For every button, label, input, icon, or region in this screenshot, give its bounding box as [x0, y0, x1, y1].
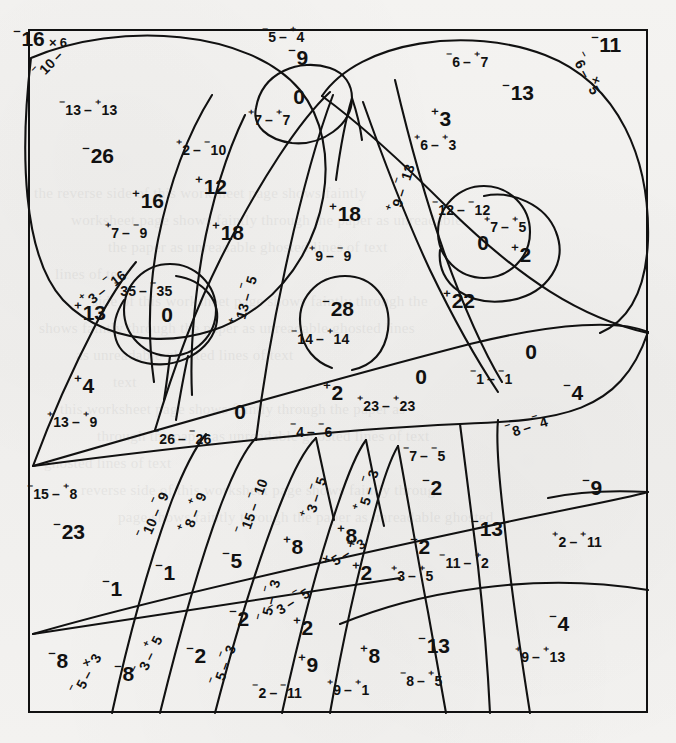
- expression-term: ⁻3: [264, 578, 283, 596]
- expression-term: ⁺6: [414, 138, 429, 154]
- term-value: 9: [315, 249, 323, 265]
- term-sign: ⁻: [59, 97, 65, 111]
- answer-value: 4: [571, 381, 582, 404]
- answer-value: 0: [161, 303, 172, 326]
- term-value: 11: [287, 686, 302, 702]
- answer-value: 26: [91, 144, 114, 167]
- region-expression: ⁺7–⁻9: [105, 220, 148, 241]
- term-sign: ⁻: [431, 443, 437, 457]
- expression-term: ⁻13: [59, 103, 81, 119]
- answer-sign: ⁺: [329, 200, 337, 217]
- answer-sign: ⁺: [360, 642, 368, 659]
- answer-value: 9: [590, 476, 601, 499]
- term-value: 5: [426, 569, 434, 585]
- expression-operator: –: [122, 226, 130, 242]
- term-value: 23: [400, 399, 416, 415]
- term-value: 23: [363, 399, 379, 415]
- region-answer: ⁺18: [212, 219, 243, 245]
- answer-sign: ⁻: [322, 295, 330, 312]
- answer-sign: ⁻: [410, 533, 418, 550]
- region-answer: ⁻13: [418, 632, 449, 658]
- answer-value: 13: [511, 81, 534, 104]
- term-sign: ⁺: [428, 668, 434, 682]
- term-sign: ⁻: [189, 426, 195, 440]
- expression-term: ⁺7: [474, 55, 489, 71]
- answer-sign: ⁻: [229, 605, 237, 622]
- term-sign: ⁺: [105, 220, 111, 234]
- term-value: 2: [559, 535, 567, 551]
- expression-operator: –: [178, 432, 186, 448]
- term-value: 9: [90, 415, 98, 431]
- answer-sign: ⁺: [293, 614, 301, 631]
- answer-value: 8: [291, 535, 302, 558]
- term-value: 2: [481, 556, 489, 572]
- term-value: 35: [120, 284, 136, 300]
- region-answer: 0: [293, 85, 304, 109]
- expression-operator: –: [463, 55, 471, 71]
- term-sign: ⁻: [291, 326, 297, 340]
- term-value: 5: [438, 449, 446, 465]
- region-expression: ⁺9–⁺1: [327, 677, 370, 698]
- answer-sign: ⁺: [195, 173, 203, 190]
- region-answer: ⁻13: [502, 79, 533, 105]
- answer-value: 23: [62, 520, 85, 543]
- answer-sign: ⁻: [591, 31, 599, 48]
- expression-operator: –: [307, 425, 315, 441]
- expression-term: ⁺9: [327, 683, 342, 699]
- expression-operator: –: [270, 686, 278, 702]
- term-sign: ⁺: [95, 97, 101, 111]
- expression-operator: –: [570, 535, 578, 551]
- term-sign: ⁻: [204, 137, 210, 151]
- answer-value: 2: [418, 535, 429, 558]
- expression-term: ⁻11: [280, 686, 302, 702]
- answer-value: 11: [599, 33, 621, 56]
- term-sign: ⁺: [290, 24, 296, 38]
- expression-term: ⁺9: [515, 650, 530, 666]
- region-expression: ⁺23–⁺23: [357, 393, 416, 414]
- expression-term: ⁻8: [400, 674, 415, 690]
- expression-term: ⁻1: [498, 372, 513, 388]
- answer-value: 1: [110, 577, 121, 600]
- term-sign: ⁺: [47, 409, 53, 423]
- answer-sign: ⁻: [155, 559, 163, 576]
- term-sign: ⁺: [552, 529, 558, 543]
- term-value: 6: [420, 138, 428, 154]
- term-value: 2: [259, 686, 267, 702]
- term-value: 6: [452, 55, 460, 71]
- expression-term: ⁻4: [290, 425, 305, 441]
- region-expression: ⁺7–⁺5: [484, 214, 527, 235]
- answer-sign: ⁻: [114, 660, 122, 677]
- answer-value: 13: [427, 634, 450, 657]
- term-sign: ⁻: [468, 197, 474, 211]
- region-answer: ⁺8: [283, 533, 303, 559]
- answer-value: 2: [519, 243, 530, 266]
- region-expression: ⁺13–⁺9: [47, 409, 98, 430]
- answer-value: 28: [331, 297, 354, 320]
- term-value: 5: [519, 220, 527, 236]
- region-expression: ⁻6–⁺7: [446, 49, 489, 70]
- answer-sign: ⁻: [53, 518, 61, 535]
- term-sign: ⁻: [153, 426, 159, 440]
- expression-operator: –: [420, 449, 428, 465]
- region-expression: ⁻4–⁻6: [290, 419, 333, 440]
- expression-term: ⁻5: [262, 30, 277, 46]
- answer-value: 5: [230, 549, 241, 572]
- term-value: 3: [397, 569, 405, 585]
- expression-term: ⁺3: [391, 569, 406, 585]
- term-value: 14: [334, 332, 350, 348]
- expression-term: ⁺23: [393, 399, 415, 415]
- term-sign: ⁺: [442, 132, 448, 146]
- answer-sign: ⁺: [323, 379, 331, 396]
- expression-term: ⁺9: [83, 415, 98, 431]
- region-expression: ⁻1–⁻1: [470, 366, 513, 387]
- term-sign: ⁺: [63, 481, 69, 495]
- region-answer: ⁻2: [410, 533, 430, 559]
- answer-value: 2: [194, 644, 205, 667]
- term-value: 9: [140, 226, 148, 242]
- answer-sign: ⁻: [418, 632, 426, 649]
- expression-operator: –: [262, 595, 279, 607]
- answer-sign: ⁺: [283, 533, 291, 550]
- term-value: 13: [53, 415, 69, 431]
- answer-sign: ⁺: [74, 372, 82, 389]
- expression-operator: –: [487, 372, 495, 388]
